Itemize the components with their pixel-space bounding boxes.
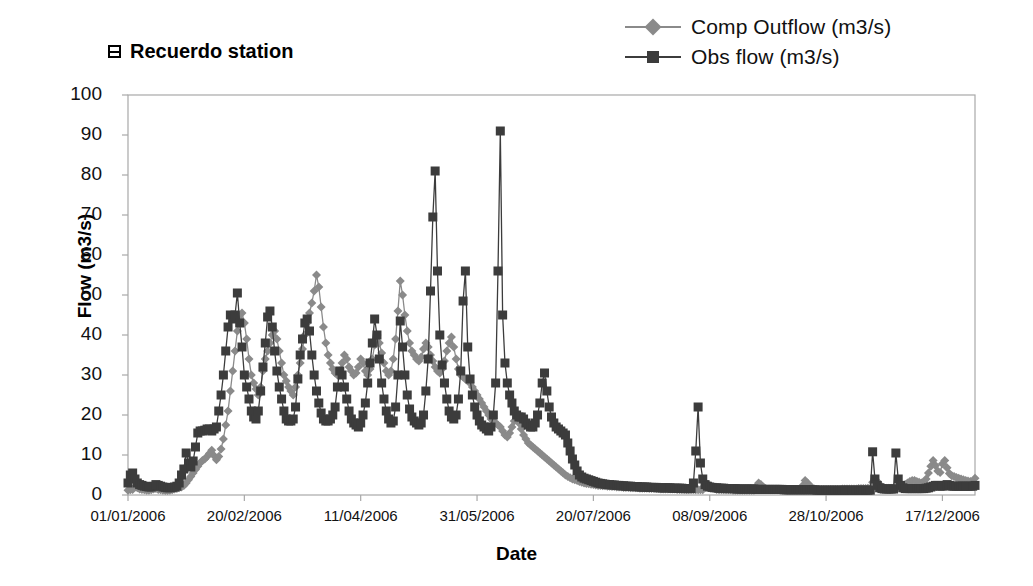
series-obs-flow-m3-s (124, 127, 980, 495)
data-point (356, 419, 365, 428)
data-point (265, 307, 274, 316)
data-point (233, 289, 242, 298)
data-point (240, 371, 249, 380)
chart-plot-area (0, 0, 1033, 586)
data-point (366, 359, 375, 368)
data-point (405, 405, 414, 414)
data-point (231, 311, 240, 320)
data-point (272, 367, 281, 376)
data-point (452, 411, 461, 420)
data-point (182, 449, 191, 458)
data-point (345, 407, 354, 416)
data-point (426, 287, 435, 296)
data-point (291, 403, 300, 412)
data-point (314, 399, 323, 408)
data-point (456, 367, 465, 376)
data-point (694, 403, 703, 412)
data-point (307, 299, 316, 308)
data-point (417, 419, 426, 428)
data-point (324, 351, 333, 360)
data-point (254, 407, 263, 416)
data-point (400, 371, 409, 380)
data-point (505, 391, 514, 400)
data-point (242, 335, 251, 344)
data-point (396, 277, 405, 286)
data-point (277, 359, 286, 368)
data-point (396, 317, 405, 326)
data-point (270, 347, 279, 356)
data-point (428, 213, 437, 222)
data-point (379, 395, 388, 404)
data-point (538, 379, 547, 388)
data-point (226, 387, 235, 396)
data-point (219, 371, 228, 380)
data-point (540, 369, 549, 378)
data-point (971, 481, 980, 490)
data-point (533, 411, 542, 420)
data-point (212, 423, 221, 432)
data-point (224, 407, 233, 416)
data-point (258, 363, 267, 372)
data-point (305, 327, 314, 336)
data-point (442, 395, 451, 404)
data-point (403, 327, 412, 336)
data-point (535, 399, 544, 408)
data-point (221, 421, 230, 430)
data-point (217, 391, 226, 400)
data-point (391, 403, 400, 412)
data-point (361, 399, 370, 408)
data-point (224, 323, 233, 332)
data-point (242, 383, 251, 392)
data-point (277, 395, 286, 404)
data-point (545, 403, 554, 412)
data-point (319, 323, 328, 332)
data-point (382, 407, 391, 416)
data-point (440, 379, 449, 388)
data-point (368, 339, 377, 348)
data-point (424, 355, 433, 364)
data-point (531, 419, 540, 428)
data-point (328, 411, 337, 420)
data-point (542, 387, 551, 396)
data-point (868, 447, 877, 456)
data-point (310, 371, 319, 380)
data-point (891, 449, 900, 458)
data-point (493, 267, 502, 276)
plot-frame (128, 95, 975, 495)
data-point (221, 347, 230, 356)
data-point (489, 411, 498, 420)
data-point (442, 347, 451, 356)
data-point (363, 379, 372, 388)
data-point (419, 411, 428, 420)
data-point (191, 443, 200, 452)
data-point (507, 399, 516, 408)
data-point (691, 447, 700, 456)
data-point (245, 395, 254, 404)
data-point (219, 435, 228, 444)
data-point (303, 315, 312, 324)
data-point (461, 267, 470, 276)
data-point (245, 355, 254, 364)
data-point (189, 457, 198, 466)
data-point (466, 375, 475, 384)
data-point (298, 335, 307, 344)
data-point (452, 355, 461, 364)
data-point (312, 387, 321, 396)
data-point (459, 297, 468, 306)
data-point (342, 395, 351, 404)
data-point (389, 355, 398, 364)
data-point (431, 167, 440, 176)
data-point (261, 355, 270, 364)
data-point (398, 343, 407, 352)
data-point (235, 319, 244, 328)
data-point (321, 339, 330, 348)
data-point (468, 391, 477, 400)
data-point (340, 383, 349, 392)
data-point (261, 339, 270, 348)
data-point (696, 459, 705, 468)
data-point (214, 407, 223, 416)
data-point (498, 311, 507, 320)
data-point (561, 431, 570, 440)
data-point (296, 351, 305, 360)
data-point (268, 323, 277, 332)
